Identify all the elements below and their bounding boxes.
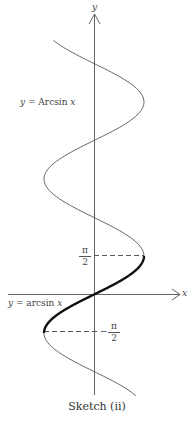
x-axis-label: x [182,288,187,298]
relation-curve [44,40,144,395]
upper-curve-label: y = Arcsin x [20,97,75,107]
tick-label-pi-over-2: π2 [79,246,91,267]
lower-curve-label: y = arcsin x [8,298,62,308]
tick-label-minus-pi-over-2: π2 [108,322,120,343]
y-axis-label: y [92,2,97,12]
arcsin-sketch [0,0,194,424]
caption: Sketch (ii) [0,400,194,413]
tick-minus-sign: − [100,326,108,336]
y-axis [89,14,100,395]
